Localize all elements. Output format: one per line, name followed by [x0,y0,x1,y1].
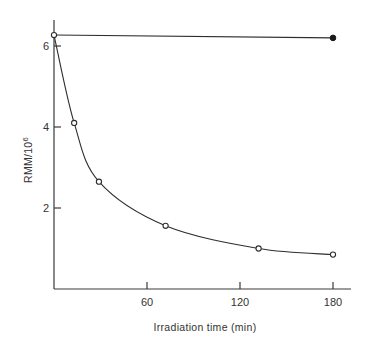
y-tick-label: 4 [43,121,49,133]
data-point-filled [330,35,336,41]
axes [54,20,351,289]
data-point-open [330,252,335,257]
data-point-open [96,179,101,184]
chart: 60120180246 Irradiation time (min) RMM/1… [0,0,370,350]
data-point-open [163,223,168,228]
y-axis-label: RMM/106 [21,137,34,183]
series [51,32,335,257]
y-tick-label: 6 [43,40,49,52]
x-tick-label: 180 [324,296,342,308]
x-tick-label: 60 [141,296,153,308]
data-point-open [72,120,77,125]
y-tick-label: 2 [43,202,49,214]
y-axis-label-exponent: 6 [21,137,30,141]
data-point-open [256,246,261,251]
x-tick-label: 120 [231,296,249,308]
y-axis-label-base: RMM/10 [22,142,34,183]
decay-curve [54,35,333,255]
ticks: 60120180246 [43,40,342,308]
control-line [54,35,333,38]
data-point-open [51,32,56,37]
x-axis-label: Irradiation time (min) [154,321,257,333]
